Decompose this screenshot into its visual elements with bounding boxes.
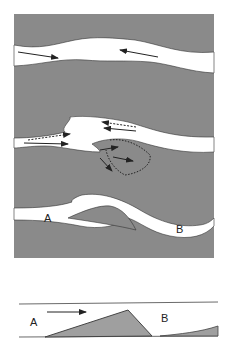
bar-foreset (45, 310, 152, 337)
braided-channel-diagram: A B A B (0, 0, 227, 349)
cross-section: A B (19, 302, 218, 337)
label-a-plan: A (44, 212, 52, 224)
label-b-plan: B (176, 223, 183, 235)
plan-view: A B (14, 14, 214, 258)
downstream-ripple (160, 326, 218, 336)
water-surface-line (19, 302, 218, 304)
label-a-section: A (30, 316, 38, 328)
label-b-section: B (161, 312, 168, 324)
